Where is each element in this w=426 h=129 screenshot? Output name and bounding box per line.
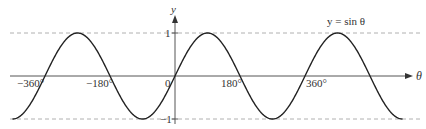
x-tick-label-360: 360° xyxy=(306,77,327,89)
x-tick-label-minus180: −180° xyxy=(86,77,113,89)
y-tick-label-minus1: −1 xyxy=(160,113,172,125)
x-tick-label-180: 180° xyxy=(221,77,242,89)
y-axis-arrow-icon xyxy=(172,15,178,23)
x-tick-label-0: 0 xyxy=(165,77,171,89)
theta-axis-label: θ xyxy=(416,69,422,83)
x-tick-label-minus360: −360° xyxy=(17,77,44,89)
sine-chart: y θ y = sin θ 1 −1 −360° −180° 0 180° 36… xyxy=(0,0,426,129)
y-axis-label: y xyxy=(170,3,176,15)
curve-label: y = sin θ xyxy=(327,15,365,27)
y-tick-label-1: 1 xyxy=(165,27,171,39)
x-axis-arrow-icon xyxy=(405,73,413,79)
